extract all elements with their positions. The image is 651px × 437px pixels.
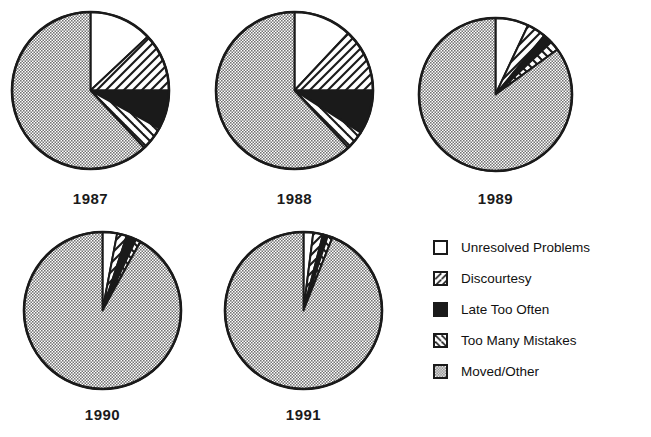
legend-label-late-too-often: Late Too Often	[461, 303, 549, 317]
pie-panel-1988: 1988	[212, 8, 377, 218]
pie-chart-1988	[212, 8, 377, 188]
pie-chart-figure: 1987 1988 1989 1990 1991 Unresolved Prob…	[0, 0, 651, 437]
legend-item-late-too-often: Late Too Often	[433, 294, 648, 325]
legend-swatch-back-hatch-icon	[433, 333, 448, 348]
pie-chart-1987	[8, 8, 173, 188]
legend-label-moved-other: Moved/Other	[461, 365, 539, 379]
legend-item-moved-other: Moved/Other	[433, 356, 648, 387]
legend-swatch-gray-stipple-icon	[433, 364, 448, 379]
pie-panel-1990: 1990	[20, 228, 185, 436]
pie-slices	[419, 18, 572, 171]
pie-chart-1991	[221, 228, 386, 406]
legend-label-discourtesy: Discourtesy	[461, 272, 532, 286]
legend-label-unresolved-problems: Unresolved Problems	[461, 241, 590, 255]
panel-label-1988: 1988	[212, 190, 377, 207]
legend-label-too-many-mistakes: Too Many Mistakes	[461, 334, 577, 348]
chart-legend: Unresolved Problems Discourtesy Late Too…	[433, 232, 648, 387]
legend-item-unresolved-problems: Unresolved Problems	[433, 232, 648, 263]
panel-label-1990: 1990	[20, 406, 185, 423]
pie-slices	[12, 12, 169, 169]
pie-panel-1989: 1989	[415, 14, 576, 220]
panel-label-1991: 1991	[221, 406, 386, 423]
legend-swatch-forward-hatch-icon	[433, 271, 448, 286]
pie-panel-1987: 1987	[8, 8, 173, 218]
pie-slices	[225, 232, 382, 389]
pie-slices	[216, 12, 373, 169]
legend-swatch-white-icon	[433, 240, 448, 255]
panel-label-1987: 1987	[8, 190, 173, 207]
pie-chart-1989	[415, 14, 576, 189]
pie-slices	[24, 232, 181, 389]
legend-swatch-solid-black-icon	[433, 302, 448, 317]
panel-label-1989: 1989	[415, 190, 576, 207]
pie-panel-1991: 1991	[221, 228, 386, 436]
legend-item-too-many-mistakes: Too Many Mistakes	[433, 325, 648, 356]
pie-chart-1990	[20, 228, 185, 406]
legend-item-discourtesy: Discourtesy	[433, 263, 648, 294]
